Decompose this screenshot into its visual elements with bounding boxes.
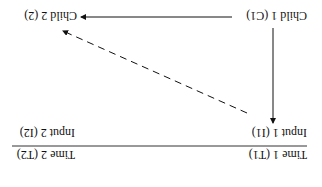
diagram-lines bbox=[0, 0, 322, 187]
cross-lagged-diagram: Time 1 (T1) Time 2 (T2) Input 1 (I1) Inp… bbox=[0, 0, 322, 187]
input1-to-child2-dashed-arrow bbox=[63, 31, 247, 113]
